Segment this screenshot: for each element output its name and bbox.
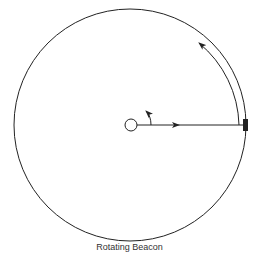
beacon-icon	[125, 119, 137, 131]
rotating-beacon-diagram	[0, 0, 259, 258]
diagram-caption: Rotating Beacon	[0, 242, 259, 252]
rotation-arrow-icon	[146, 111, 151, 125]
sweep-arc-arrow-icon	[199, 43, 239, 125]
target-marker	[243, 119, 248, 131]
